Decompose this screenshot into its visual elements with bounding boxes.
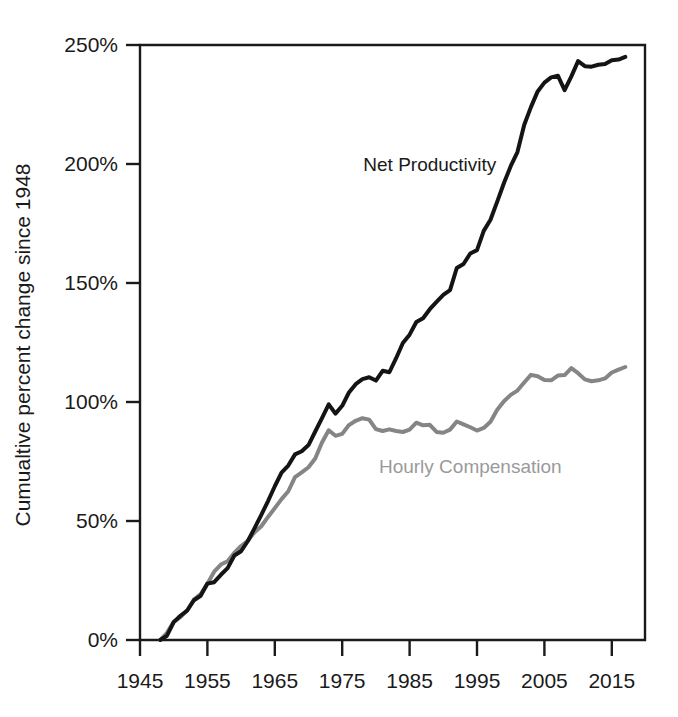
x-tick-label-1985: 1985 bbox=[386, 669, 433, 692]
y-tick-label-200%: 200% bbox=[64, 152, 118, 175]
x-tick-label-1945: 1945 bbox=[117, 669, 164, 692]
x-axis-ticks: 19451955196519751985199520052015 bbox=[117, 640, 636, 692]
y-tick-label-150%: 150% bbox=[64, 271, 118, 294]
net-productivity-label: Net Productivity bbox=[363, 154, 497, 175]
y-axis-title-text: Cumualtive percent change since 1948 bbox=[11, 163, 34, 526]
series-line-net-productivity bbox=[160, 57, 625, 640]
x-tick-label-1965: 1965 bbox=[251, 669, 298, 692]
x-tick-label-2015: 2015 bbox=[588, 669, 635, 692]
plot-frame bbox=[140, 45, 645, 640]
y-tick-label-100%: 100% bbox=[64, 390, 118, 413]
y-axis-ticks: 0%50%100%150%200%250% bbox=[64, 33, 140, 651]
y-tick-label-50%: 50% bbox=[76, 509, 118, 532]
y-tick-label-250%: 250% bbox=[64, 33, 118, 56]
y-tick-label-0%: 0% bbox=[88, 628, 118, 651]
x-tick-label-1955: 1955 bbox=[184, 669, 231, 692]
hourly-compensation-label: Hourly Compensation bbox=[379, 456, 562, 477]
x-tick-label-1975: 1975 bbox=[319, 669, 366, 692]
x-tick-label-2005: 2005 bbox=[521, 669, 568, 692]
chart-figure: Cumualtive percent change since 1948 0%5… bbox=[0, 0, 678, 717]
series-line-hourly-compensation bbox=[160, 367, 625, 640]
productivity-pay-gap-chart: Cumualtive percent change since 1948 0%5… bbox=[0, 0, 678, 717]
series-lines bbox=[160, 57, 625, 640]
x-tick-label-1995: 1995 bbox=[454, 669, 501, 692]
y-axis-title: Cumualtive percent change since 1948 bbox=[11, 163, 34, 526]
